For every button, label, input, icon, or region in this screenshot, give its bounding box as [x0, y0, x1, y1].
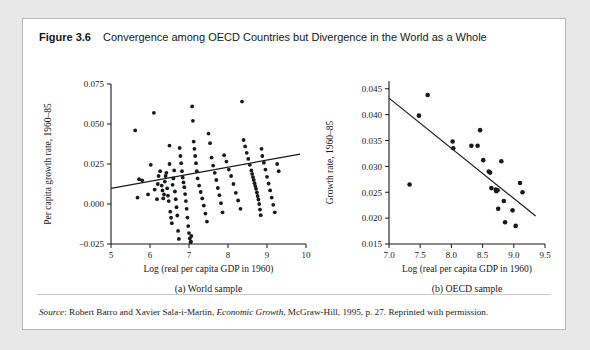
data-point [152, 111, 156, 115]
data-point [211, 164, 215, 168]
x-tick-label: 7.0 [383, 250, 395, 260]
figure-card: Figure 3.6Convergence among OECD Countri… [22, 18, 566, 330]
data-point [161, 189, 165, 193]
data-point [451, 146, 456, 151]
page-title: Convergence among OECD Countries but Div… [91, 31, 487, 43]
y-tick-label: 0.040 [362, 110, 383, 120]
y-tick-label: 0.045 [362, 84, 383, 94]
x-tick-label: 6 [148, 250, 153, 260]
data-point [196, 177, 200, 181]
data-point [260, 154, 264, 158]
data-point [268, 189, 272, 193]
data-point [265, 175, 269, 179]
data-point [189, 240, 193, 244]
data-point [240, 100, 244, 104]
x-axis-label: Log (real per capita GDP in 1960) [402, 264, 532, 275]
data-point [219, 201, 223, 205]
data-point [242, 138, 246, 142]
data-point [174, 197, 178, 201]
data-point [162, 193, 166, 197]
data-point [195, 169, 199, 173]
data-point [499, 159, 504, 164]
data-point [182, 185, 186, 189]
data-point [179, 154, 183, 158]
data-point [267, 182, 271, 186]
data-point [200, 197, 204, 201]
data-point [234, 191, 238, 195]
x-tick-label: 7 [187, 250, 192, 260]
data-point [502, 199, 507, 204]
y-tick-label: 0.050 [84, 119, 105, 129]
data-point [167, 199, 171, 203]
data-point [189, 234, 193, 238]
data-point [213, 171, 217, 175]
data-point [227, 168, 231, 172]
x-tick-label: 7.5 [415, 250, 427, 260]
data-point [489, 186, 494, 191]
data-point [193, 154, 197, 158]
data-point [182, 181, 186, 185]
data-point [232, 182, 236, 186]
data-point [250, 172, 254, 176]
panel-world-sample: −0.0250.0000.0250.0500.0755678910Log (re… [29, 59, 314, 294]
data-point [157, 174, 161, 178]
data-point [417, 113, 422, 118]
data-point [186, 216, 190, 220]
x-tick-label: 9 [265, 250, 270, 260]
data-point [181, 176, 185, 180]
data-point [257, 202, 261, 206]
data-point [221, 210, 225, 214]
data-point [214, 178, 218, 182]
chart-world-sample: −0.0250.0000.0250.0500.0755678910Log (re… [29, 59, 314, 294]
data-point [250, 169, 254, 173]
y-tick-label: −0.025 [79, 239, 105, 249]
data-point [258, 208, 262, 212]
source-authors: : Robert Barro and Xavier Sala-i-Martin, [64, 307, 216, 317]
data-point [158, 169, 162, 173]
data-point [168, 210, 172, 214]
data-point [203, 212, 207, 216]
panel-oecd-sample: 0.0150.0200.0250.0300.0350.0400.0457.07.… [315, 59, 565, 294]
data-point [175, 214, 179, 218]
data-point [186, 224, 190, 228]
y-tick-label: 0.025 [84, 159, 105, 169]
data-point [257, 198, 261, 202]
y-tick-label: 0.015 [362, 239, 383, 249]
source-note: Source: Robert Barro and Xavier Sala-i-M… [39, 307, 553, 317]
data-point [164, 174, 168, 178]
data-point [191, 119, 195, 123]
x-tick-label: 8.0 [446, 250, 458, 260]
data-point [255, 191, 259, 195]
y-axis-label: Per capita growth rate, 1960–85 [43, 103, 53, 225]
data-point [171, 183, 175, 187]
y-tick-label: 0.030 [362, 162, 383, 172]
x-tick-label: 9.0 [508, 250, 520, 260]
data-point [222, 153, 226, 157]
x-tick-label: 8 [226, 250, 231, 260]
data-point [136, 196, 140, 200]
data-point [510, 208, 515, 213]
y-axis-label: Growth rate, 1960–85 [325, 120, 335, 204]
data-point [165, 186, 169, 190]
x-tick-label: 5 [109, 250, 114, 260]
data-point [149, 163, 153, 167]
data-point [259, 213, 263, 217]
data-point [407, 182, 412, 187]
data-point [202, 204, 206, 208]
regression-line [389, 98, 536, 216]
data-point [518, 181, 523, 186]
y-tick-label: 0.075 [84, 79, 105, 89]
data-point [252, 178, 256, 182]
data-point [161, 197, 165, 201]
data-point [168, 144, 172, 148]
data-point [496, 207, 501, 212]
data-point [488, 170, 493, 175]
data-point [273, 210, 277, 214]
data-point [469, 143, 474, 148]
data-point [243, 145, 247, 149]
data-point [160, 184, 164, 188]
panel-caption: (a) World sample [175, 283, 243, 294]
data-point [262, 161, 266, 165]
data-point [176, 229, 180, 233]
data-point [205, 220, 209, 224]
